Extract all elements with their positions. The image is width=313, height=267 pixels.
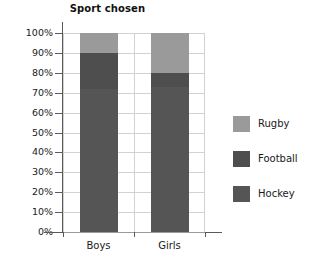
- vertical-gridline: [63, 33, 64, 232]
- bar-segment-boys-rugby: [80, 33, 118, 53]
- y-tick-mark: [55, 133, 63, 134]
- y-tick-label: 60%: [1, 108, 53, 117]
- y-tick-label: 70%: [1, 88, 53, 97]
- y-tick-label: 100%: [1, 28, 53, 37]
- legend-swatch-hockey: [233, 186, 250, 202]
- legend-label-rugby: Rugby: [258, 116, 289, 132]
- bar-segment-girls-hockey: [151, 87, 189, 232]
- bar-segment-boys-hockey: [80, 89, 118, 232]
- y-tick-mark: [55, 113, 63, 114]
- y-tick-mark: [55, 53, 63, 54]
- y-axis-tick-labels: 0%10%20%30%40%50%60%70%80%90%100%: [0, 0, 53, 267]
- legend-label-football: Football: [258, 151, 298, 167]
- y-tick-mark: [55, 152, 63, 153]
- y-tick-label: 90%: [1, 48, 53, 57]
- x-tick-mark: [63, 232, 64, 237]
- y-tick-mark: [55, 212, 63, 213]
- y-tick-label: 40%: [1, 147, 53, 156]
- y-tick-label: 30%: [1, 167, 53, 176]
- x-tick-mark: [134, 232, 135, 237]
- y-tick-mark: [55, 192, 63, 193]
- x-tick-mark: [205, 232, 206, 237]
- y-tick-mark: [55, 73, 63, 74]
- bar-segment-girls-rugby: [151, 33, 189, 73]
- chart-figure: Sport chosen 0%10%20%30%40%50%60%70%80%9…: [0, 0, 313, 267]
- bar-segment-girls-football: [151, 73, 189, 87]
- y-tick-label: 50%: [1, 128, 53, 137]
- x-tick-label-boys: Boys: [69, 240, 129, 251]
- y-tick-label: 80%: [1, 68, 53, 77]
- legend-swatch-rugby: [233, 116, 250, 132]
- legend-label-hockey: Hockey: [258, 186, 295, 202]
- y-tick-mark: [55, 232, 63, 233]
- y-tick-mark: [55, 93, 63, 94]
- y-tick-label: 10%: [1, 207, 53, 216]
- plot-area: [63, 33, 205, 232]
- vertical-gridline: [134, 33, 135, 232]
- bar-segment-boys-football: [80, 53, 118, 89]
- y-tick-mark: [55, 172, 63, 173]
- bar-boys: [80, 33, 118, 232]
- y-tick-label: 20%: [1, 187, 53, 196]
- legend-swatch-football: [233, 151, 250, 167]
- bar-girls: [151, 33, 189, 232]
- vertical-gridline: [204, 33, 205, 232]
- y-tick-mark: [55, 33, 63, 34]
- x-tick-label-girls: Girls: [140, 240, 200, 251]
